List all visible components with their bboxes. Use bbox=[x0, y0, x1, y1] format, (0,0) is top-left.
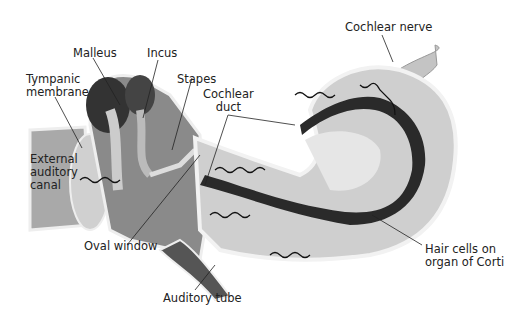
label-stapes: Stapes bbox=[177, 73, 216, 86]
label-tympanic-membrane: Tympanic membrane bbox=[26, 73, 89, 99]
label-incus: Incus bbox=[147, 47, 177, 60]
label-oval-window: Oval window bbox=[84, 240, 157, 253]
incus-shape bbox=[125, 75, 155, 115]
label-cochlear-nerve: Cochlear nerve bbox=[345, 21, 432, 34]
label-auditory-tube: Auditory tube bbox=[163, 292, 242, 305]
label-malleus: Malleus bbox=[73, 47, 117, 60]
label-external-auditory-canal: External auditory canal bbox=[30, 153, 78, 192]
malleus-shape bbox=[86, 77, 130, 133]
label-hair-cells: Hair cells on organ of Corti bbox=[425, 243, 504, 269]
label-cochlear-duct: Cochlear duct bbox=[203, 88, 254, 114]
